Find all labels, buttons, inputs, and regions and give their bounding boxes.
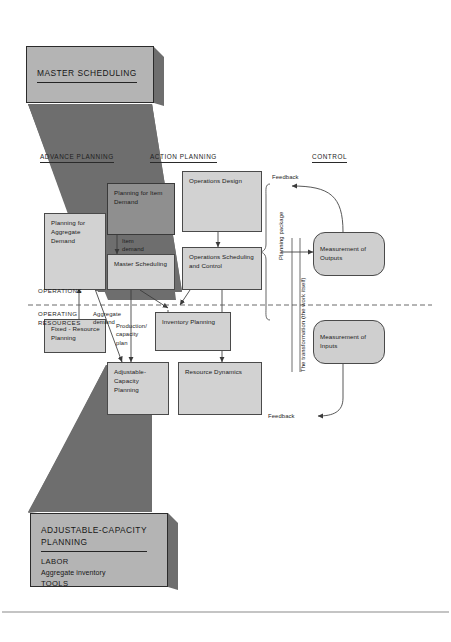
planning-package-brace [261,184,270,320]
box-planning-for-aggregate-demand[interactable]: Planning for Aggregate Demand [44,213,106,290]
label-feedback-top: Feedback [272,173,299,181]
box-operations-scheduling-and-control[interactable]: Operations Scheduling and Control [182,247,262,290]
label-feedback-bottom: Feedback [268,412,295,420]
banner-bottom-line-labor: LABOR [41,556,147,567]
banner-bottom-line-aggregate-inventory: Aggregate inventory [41,568,147,579]
banner-bottom-title-line2: PLANNING [41,536,147,548]
arrow-feedback-top [292,186,343,232]
label-item-demand: Item demand [122,237,144,254]
label-transformation: The transformation (the work itself) [299,277,307,372]
column-header-advance-planning: ADVANCE PLANNING [40,153,114,163]
banner-bottom-title-line1: ADJUSTABLE-CAPACITY [41,524,147,536]
column-header-action-planning: ACTION PLANNING [150,153,217,163]
box-resource-dynamics[interactable]: Resource Dynamics [178,362,262,415]
arrow-feedback-bottom [318,364,343,416]
diagram-page: MASTER SCHEDULING ADVANCE PLANNING ACTIO… [0,0,451,642]
banner-master-scheduling: MASTER SCHEDULING [26,46,154,103]
box-operations-design[interactable]: Operations Design [182,171,262,232]
box-inventory-planning[interactable]: Inventory Planning [155,312,231,351]
box-measurement-of-inputs[interactable]: Measurement of Inputs [313,320,385,364]
label-production-capacity-plan: Production/ capacity plan [116,322,147,347]
box-measurement-of-outputs[interactable]: Measurement of Outputs [313,232,385,276]
banner-bottom-line-tools: TOOLS [41,578,147,589]
label-planning-package: Planning package [277,212,285,260]
banner-master-scheduling-rule [37,82,137,83]
column-header-control: CONTROL [312,153,347,163]
banner-bottom-rule [41,551,147,552]
box-adjustable-capacity-planning[interactable]: Adjustable- Capacity Planning [107,362,169,415]
label-operations: OPERATIONS [38,287,82,296]
label-operating-resources: OPERATING RESOURCES [38,310,81,327]
banner-master-scheduling-title: MASTER SCHEDULING [37,67,137,79]
box-planning-for-item-demand[interactable]: Planning for Item Demand [107,183,175,235]
box-master-scheduling[interactable]: Master Scheduling [107,254,175,290]
banner-adjustable-capacity-planning: ADJUSTABLE-CAPACITY PLANNING LABOR Aggre… [30,513,168,587]
